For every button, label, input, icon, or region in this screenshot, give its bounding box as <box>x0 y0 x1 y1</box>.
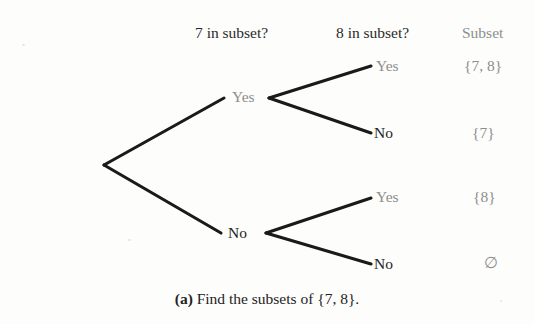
result-subset-3: {8} <box>473 189 496 205</box>
figure-caption: (a) Find the subsets of {7, 8}. <box>0 290 534 308</box>
scan-speckle <box>128 239 131 241</box>
node-level1-yes: Yes <box>232 89 255 105</box>
edge-yes-to-no <box>269 98 371 133</box>
subset-decision-tree-figure: 7 in subset? 8 in subset? Subset Yes No … <box>0 0 534 324</box>
figure-caption-tag: (a) <box>175 290 193 307</box>
node-level2-no-lower: No <box>374 256 393 272</box>
scan-speckle <box>22 44 25 46</box>
node-level2-yes-lower: Yes <box>376 189 399 205</box>
node-level1-no: No <box>228 225 247 241</box>
tree-edges <box>0 0 534 324</box>
scan-speckle <box>500 300 502 302</box>
figure-caption-text: Find the subsets of {7, 8}. <box>193 290 359 307</box>
result-subset-1: {7, 8} <box>464 58 502 74</box>
edge-root-to-yes <box>104 98 224 165</box>
edge-no-to-no <box>266 233 371 264</box>
edge-no-to-yes <box>266 198 371 233</box>
result-subset-4: ∅ <box>484 255 498 271</box>
edge-yes-to-yes <box>269 66 371 98</box>
edge-root-to-no <box>104 165 221 233</box>
node-level2-no-upper: No <box>374 125 393 141</box>
result-subset-2: {7} <box>472 125 495 141</box>
node-level2-yes-upper: Yes <box>376 58 399 74</box>
